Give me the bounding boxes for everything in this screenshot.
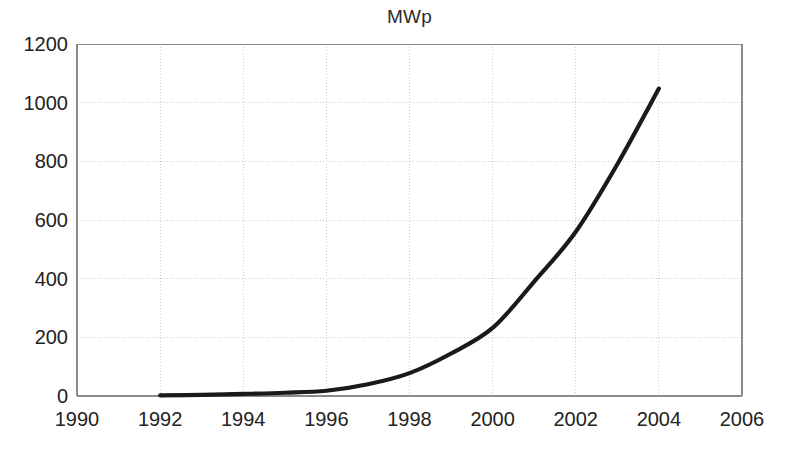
chart-plot-area [0,0,787,451]
x-axis-tick-1998: 1998 [387,408,432,431]
y-axis-tick-1000: 1000 [0,91,68,114]
x-axis-tick-1996: 1996 [304,408,349,431]
x-axis-tick-1994: 1994 [221,408,266,431]
y-axis-tick-400: 400 [0,267,68,290]
x-axis-tick-1992: 1992 [138,408,183,431]
chart-container: MWp 020040060080010001200 19901992199419… [0,0,787,451]
x-axis-tick-2006: 2006 [720,408,765,431]
y-axis-tick-0: 0 [0,385,68,408]
y-axis-tick-800: 800 [0,150,68,173]
y-axis-tick-200: 200 [0,326,68,349]
x-axis-tick-1990: 1990 [55,408,100,431]
x-axis-tick-2000: 2000 [470,408,515,431]
grid-lines [77,44,742,396]
y-axis-tick-600: 600 [0,209,68,232]
x-axis-tick-2004: 2004 [637,408,682,431]
y-axis-tick-1200: 1200 [0,33,68,56]
x-axis-tick-2002: 2002 [554,408,599,431]
